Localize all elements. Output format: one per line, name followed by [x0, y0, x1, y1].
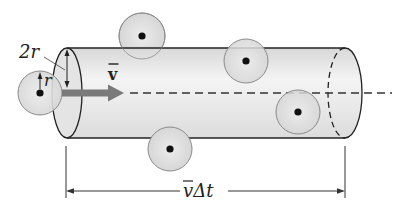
molecule-upper-right [224, 39, 268, 83]
velocity-label: v [107, 65, 118, 84]
arrowhead-left-icon [66, 188, 74, 193]
molecule-bottom [148, 127, 192, 171]
molecule-lower-right [276, 90, 320, 134]
distance-label: vΔt [183, 180, 214, 201]
collision-cylinder-diagram: 2r r v vΔt [0, 0, 402, 206]
molecule-center-dot [36, 89, 43, 96]
radius-label: r [44, 71, 53, 90]
diameter-label: 2r [18, 41, 40, 62]
molecule-moving: r [18, 71, 62, 115]
molecule-center-dot [138, 32, 145, 39]
arrowhead-right-icon [337, 188, 345, 193]
distance-dimension: vΔt [66, 146, 345, 201]
